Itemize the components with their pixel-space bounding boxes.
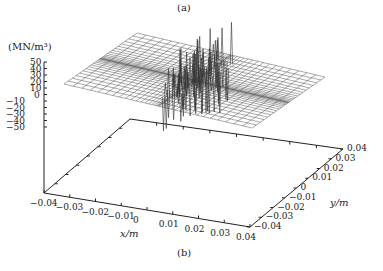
surface-plot xyxy=(0,0,383,271)
